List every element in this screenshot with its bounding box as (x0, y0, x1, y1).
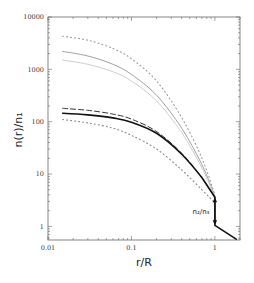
series-group (63, 36, 237, 239)
chart: 0.010.11110100100010000 n₂/n₃ r/R n(r)/n… (0, 0, 254, 283)
series-black-solid (63, 113, 237, 239)
x-tick-label: 0.01 (41, 244, 55, 252)
axis-ticks (48, 17, 240, 240)
x-tick-label: 0.1 (126, 244, 136, 252)
y-tick-label: 10000 (23, 13, 44, 21)
plot-frame (48, 17, 240, 240)
plot-border (48, 17, 240, 240)
annotation-group: n₂/n₃ (193, 197, 218, 225)
series-gray-dotted-bottom (63, 120, 215, 204)
arrow-head-up (213, 197, 217, 202)
annotation-label: n₂/n₃ (193, 208, 210, 216)
x-axis-label: r/R (136, 256, 152, 269)
tick-labels: 0.010.11110100100010000 (23, 13, 217, 252)
series-black-dashed (63, 108, 215, 197)
arrow-head-down (213, 220, 217, 225)
x-tick-label: 1 (213, 244, 217, 252)
series-gray-light-solid (63, 60, 215, 197)
series-gray-dotted-top (63, 36, 215, 195)
series-gray-solid (63, 51, 215, 196)
y-tick-label: 1000 (27, 66, 44, 74)
y-axis-label: n(r)/n₁ (12, 112, 25, 147)
y-tick-label: 1 (40, 223, 44, 231)
y-tick-label: 10 (36, 170, 44, 178)
y-tick-label: 100 (32, 118, 44, 126)
